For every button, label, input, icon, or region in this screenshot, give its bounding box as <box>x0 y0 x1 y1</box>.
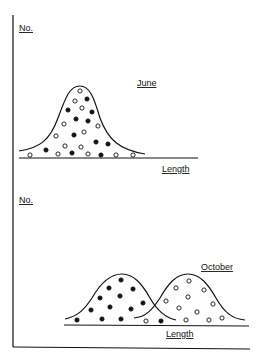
october-open-dots <box>144 279 224 323</box>
october-x-axis <box>64 325 249 326</box>
october-curve-label: October <box>201 262 233 272</box>
october-x-axis-label: Length <box>166 329 194 339</box>
june-y-axis-label: No. <box>19 23 33 33</box>
june-panel: No. June Length <box>19 23 198 174</box>
june-curve-label: June <box>137 78 157 88</box>
bottom-border-line <box>13 347 250 349</box>
june-x-axis-label: Length <box>162 164 190 174</box>
june-bell-curve <box>19 86 145 154</box>
october-panel: No. October Length <box>19 195 249 339</box>
october-y-axis-label: No. <box>19 195 33 205</box>
october-filled-dots <box>75 278 163 323</box>
length-distribution-diagram: No. June Length <box>0 0 260 359</box>
june-dots <box>28 89 135 157</box>
